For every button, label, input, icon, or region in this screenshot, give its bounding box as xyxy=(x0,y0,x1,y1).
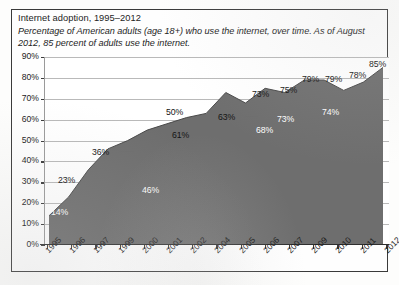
y-axis-label: 60% xyxy=(15,114,39,124)
data-point-label: 23% xyxy=(58,175,75,185)
y-axis-labels: 90%80%70%60%50%40%30%20%10%0% xyxy=(12,57,39,245)
data-point-label: 61% xyxy=(172,130,189,140)
label-leader-line xyxy=(120,151,134,152)
data-point-label: 78% xyxy=(349,70,366,80)
data-point-label: 75% xyxy=(280,85,297,95)
data-point-label: 50% xyxy=(166,107,183,117)
y-axis-label: 70% xyxy=(15,93,39,103)
data-point-label: 68% xyxy=(256,125,273,135)
y-axis-label: 0% xyxy=(15,239,39,249)
chart-page: Internet adoption, 1995–2012 Percentage … xyxy=(0,0,399,285)
y-axis-label: 50% xyxy=(15,135,39,145)
chart-title: Internet adoption, 1995–2012 xyxy=(18,13,141,23)
plot-area: 14%23%36%46%50%61%63%73%68%75%73%79%79%7… xyxy=(44,57,389,245)
data-point-label: 74% xyxy=(322,107,339,117)
label-leader-line xyxy=(245,116,258,117)
y-axis-line xyxy=(44,57,45,245)
y-axis-label: 80% xyxy=(15,72,39,82)
y-axis-label: 10% xyxy=(15,218,39,228)
data-point-label: 73% xyxy=(277,114,294,124)
y-axis-label: 30% xyxy=(15,176,39,186)
data-point-label: 73% xyxy=(252,89,269,99)
data-point-label: 36% xyxy=(92,147,109,157)
y-axis-label: 20% xyxy=(15,197,39,207)
y-axis-label: 90% xyxy=(15,51,39,61)
chart-subtitle: Percentage of American adults (age 18+) … xyxy=(18,25,366,49)
data-point-label: 79% xyxy=(302,74,319,84)
x-axis-labels: 1995199619971999200020012002200420052006… xyxy=(44,248,396,282)
y-axis-label: 40% xyxy=(15,155,39,165)
data-point-label: 85% xyxy=(369,59,386,69)
data-point-label: 46% xyxy=(142,185,159,195)
data-point-label: 14% xyxy=(51,207,68,217)
data-point-label: 63% xyxy=(218,112,235,122)
chart-frame: Internet adoption, 1995–2012 Percentage … xyxy=(11,9,388,272)
data-point-label: 79% xyxy=(325,74,342,84)
